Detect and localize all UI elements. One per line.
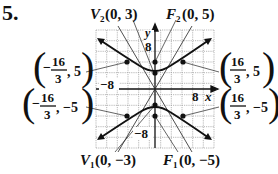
svg-text:): ) [81, 80, 94, 125]
svg-text:16: 16 [41, 90, 55, 105]
x-axis-label: x [204, 89, 212, 104]
label-v1: V 1 (0, −3) [80, 152, 136, 170]
vertex-v1 [152, 102, 157, 107]
svg-text:, 5: , 5 [67, 64, 81, 79]
y-axis-label: y [143, 26, 151, 40]
y-tick-8: 8 [145, 39, 152, 54]
point-bot-left [124, 113, 129, 118]
svg-text:3: 3 [234, 107, 241, 122]
svg-text:, 5: , 5 [246, 64, 260, 79]
label-v2: V 2 (0, 3) [90, 6, 138, 24]
svg-text:−: − [32, 96, 40, 111]
svg-text:3: 3 [44, 107, 51, 122]
svg-text:F: F [162, 152, 173, 168]
svg-text:(0, −5): (0, −5) [179, 152, 220, 169]
svg-text:): ) [268, 80, 278, 125]
svg-text:F: F [165, 6, 176, 22]
svg-text:(0, 5): (0, 5) [182, 6, 215, 23]
svg-text:−: − [43, 60, 51, 75]
label-point-bot-right: ( 16 3 , −5 ) [219, 80, 278, 125]
svg-text:1: 1 [173, 160, 178, 170]
label-f2: F 2 (0, 5) [165, 6, 215, 24]
svg-text:16: 16 [231, 54, 245, 69]
hyperbola-diagram: y 8 −8 8 x −8 V 2 (0, 3) F 2 (0, 5) V 1 … [0, 0, 278, 174]
focus-f2 [152, 59, 157, 64]
svg-text:3: 3 [55, 71, 62, 86]
point-top-right [180, 59, 185, 64]
y-axis-arrow-icon [152, 24, 158, 31]
svg-text:, −5: , −5 [56, 100, 78, 115]
point-bot-right [180, 113, 185, 118]
x-axis-arrow-icon [211, 86, 218, 92]
svg-text:(0, 3): (0, 3) [105, 6, 138, 23]
svg-text:16: 16 [231, 90, 245, 105]
y-tick-neg8: −8 [134, 126, 148, 141]
svg-text:, −5: , −5 [246, 100, 268, 115]
svg-text:(0, −3): (0, −3) [95, 152, 136, 169]
label-f1: F 1 (0, −5) [162, 152, 220, 170]
point-top-left [124, 59, 129, 64]
focus-f1 [152, 113, 157, 118]
svg-text:16: 16 [52, 54, 66, 69]
vertex-v2 [152, 70, 157, 75]
x-tick-8: 8 [192, 89, 199, 104]
label-point-bot-left: ( − 16 3 , −5 ) [22, 80, 94, 125]
x-tick-neg8: −8 [100, 77, 114, 92]
svg-text:2: 2 [176, 14, 181, 24]
svg-text:3: 3 [234, 71, 241, 86]
